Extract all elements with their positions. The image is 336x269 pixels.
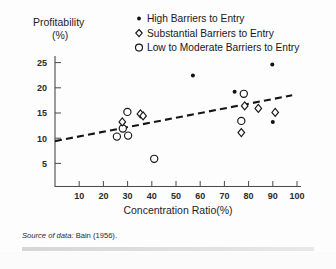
y-tick-label-20: 20 — [37, 83, 47, 93]
y-tick-label-10: 10 — [37, 134, 47, 144]
y-axis-title: Profitability — [33, 16, 85, 28]
x-tick-label-20: 20 — [98, 191, 108, 201]
legend-item-low-moderate-barriers[interactable]: Low to Moderate Barriers to Entry — [136, 42, 301, 53]
y-tick-label-25: 25 — [37, 58, 47, 68]
x-tick-label-70: 70 — [219, 191, 229, 201]
x-tick-label-10: 10 — [74, 191, 84, 201]
chart-card: Profitability (%) High Barriers to Entry… — [0, 0, 336, 252]
data-point[interactable] — [233, 90, 237, 94]
legend-marker-open-diamond-icon — [136, 30, 142, 37]
legend-marker-open-circle-icon — [136, 44, 143, 51]
x-axis-title: Concentration Ratio(%) — [123, 204, 232, 216]
legend-item-substantial-barriers[interactable]: Substantial Barriers to Entry — [136, 28, 275, 39]
data-point[interactable] — [151, 155, 158, 162]
data-point[interactable] — [272, 108, 279, 116]
data-point[interactable] — [125, 132, 132, 139]
legend-label-low-moderate-barriers: Low to Moderate Barriers to Entry — [147, 42, 300, 53]
y-axis-ticks: 25 20 15 10 5 — [37, 58, 61, 169]
data-point[interactable] — [271, 120, 275, 124]
y-tick-label-15: 15 — [37, 108, 47, 118]
y-tick-label-5: 5 — [42, 159, 47, 169]
x-tick-label-90: 90 — [268, 191, 278, 201]
legend-marker-filled-dot-icon — [137, 17, 141, 21]
x-tick-label-30: 30 — [123, 191, 133, 201]
source-note-prefix: Source of data: — [22, 231, 74, 240]
legend: High Barriers to Entry Substantial Barri… — [136, 13, 301, 53]
data-point[interactable] — [240, 90, 247, 97]
x-axis-ticks: 10 20 30 40 50 60 70 80 90 100 — [74, 181, 304, 201]
footer-divider — [22, 247, 314, 251]
data-point[interactable] — [124, 108, 131, 115]
source-note: Source of data: Bain (1956). — [22, 231, 117, 240]
data-point[interactable] — [191, 74, 195, 78]
legend-item-high-barriers[interactable]: High Barriers to Entry — [137, 13, 245, 24]
data-point[interactable] — [238, 117, 245, 124]
source-note-value: Bain (1956). — [76, 231, 117, 240]
x-tick-label-80: 80 — [244, 191, 254, 201]
series-high-barriers-points — [191, 63, 275, 124]
x-tick-label-50: 50 — [171, 191, 181, 201]
x-tick-label-60: 60 — [195, 191, 205, 201]
y-axis-units: (%) — [52, 29, 68, 41]
trend-line — [55, 95, 292, 141]
chart-svg: Profitability (%) High Barriers to Entry… — [0, 0, 336, 252]
x-tick-label-100: 100 — [289, 191, 304, 201]
data-point[interactable] — [255, 104, 262, 112]
data-point[interactable] — [238, 129, 245, 137]
scatter-plot: Profitability (%) High Barriers to Entry… — [0, 0, 336, 252]
data-point[interactable] — [270, 63, 274, 67]
figure-container: Profitability (%) High Barriers to Entry… — [0, 0, 336, 269]
series-substantial-barriers-points — [119, 102, 279, 137]
legend-label-substantial-barriers: Substantial Barriers to Entry — [147, 28, 275, 39]
data-point[interactable] — [119, 118, 126, 126]
x-tick-label-40: 40 — [147, 191, 157, 201]
data-point[interactable] — [113, 133, 120, 140]
legend-label-high-barriers: High Barriers to Entry — [147, 13, 245, 24]
